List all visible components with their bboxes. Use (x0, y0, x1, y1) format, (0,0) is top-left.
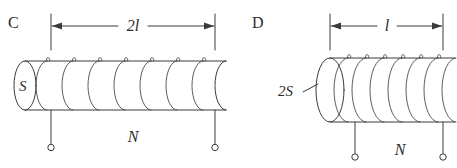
panel-c-label: C (8, 14, 19, 31)
winding-arc-d (388, 58, 402, 122)
winding-loop-c (98, 58, 101, 61)
winding-arc-d (424, 58, 438, 122)
winding-arc-c (36, 61, 47, 110)
turns-label-n-c: N (127, 128, 140, 145)
cylinder-right-face-c (215, 61, 226, 110)
arrowhead-right-d (432, 23, 442, 30)
winding-arc-d (370, 58, 384, 122)
winding-loop-c (124, 58, 127, 61)
cylinder-left-face-d (316, 58, 344, 122)
area-label-2s: 2S (278, 83, 294, 99)
winding-arc-d (442, 58, 456, 122)
terminal-left-c (48, 144, 54, 150)
solenoid-d: 2S (278, 55, 456, 122)
solenoid-c: S (14, 58, 226, 110)
winding-loop-d (347, 55, 350, 58)
winding-arc-c (114, 61, 125, 110)
winding-arc-d (352, 58, 366, 122)
winding-arc-c (62, 61, 73, 110)
dimension-2l: 2l (51, 14, 215, 50)
winding-loop-c (46, 58, 49, 61)
terminal-right-d (440, 154, 446, 160)
turns-label-n-d: N (394, 141, 407, 158)
winding-loop-c (176, 58, 179, 61)
arrowhead-left-d (331, 23, 341, 30)
winding-loop-c (150, 58, 153, 61)
area-label-s: S (19, 78, 27, 94)
winding-loop-d (383, 55, 386, 58)
panel-d-label: D (252, 14, 264, 31)
dimension-l: l (330, 14, 443, 50)
terminal-right-c (212, 144, 218, 150)
winding-arc-c (192, 61, 203, 110)
dimension-label-2l: 2l (127, 17, 140, 34)
arrowhead-left-c (52, 23, 62, 30)
solenoid-comparison-figure: C 2l (0, 0, 457, 168)
winding-loop-c (72, 58, 75, 61)
winding-arc-c (140, 61, 151, 110)
dimension-label-l: l (385, 17, 390, 34)
winding-arc-c (88, 61, 99, 110)
winding-loop-d (401, 55, 404, 58)
terminal-left-d (352, 154, 358, 160)
panel-c: C 2l (8, 14, 226, 151)
winding-arc-d (334, 58, 348, 122)
winding-loop-c (202, 58, 205, 61)
winding-arc-c (166, 61, 177, 110)
winding-arc-d (406, 58, 420, 122)
winding-loop-d (365, 55, 368, 58)
winding-loop-d (419, 55, 422, 58)
panel-d: D l (252, 14, 456, 160)
arrowhead-right-c (204, 23, 214, 30)
winding-loop-d (437, 55, 440, 58)
figure-container: C 2l (0, 0, 457, 168)
